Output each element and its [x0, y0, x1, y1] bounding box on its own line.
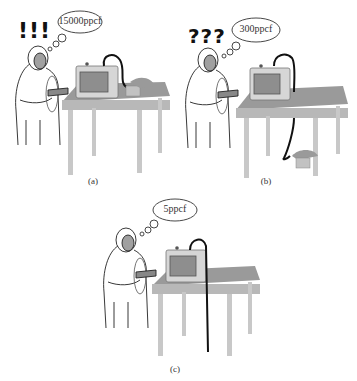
particle-counter	[250, 64, 290, 100]
panel-caption: (a)	[78, 176, 108, 186]
panel-c: 5ppcf (c)	[90, 190, 270, 381]
particle-counter	[76, 62, 118, 98]
person	[16, 46, 68, 145]
panel-caption: (c)	[160, 364, 190, 374]
panel-b: ??? 300ppcf (b)	[178, 0, 357, 190]
particle-counter	[166, 246, 206, 282]
person	[104, 228, 156, 328]
exclamation-marks: !!!	[18, 18, 51, 43]
panel-caption: (b)	[251, 176, 281, 186]
thought-text: 5ppcf	[153, 203, 197, 214]
thought-text: 300ppcf	[234, 23, 278, 34]
question-marks: ???	[188, 24, 226, 48]
person	[186, 48, 238, 148]
thought-text: 15000ppcf	[58, 15, 102, 26]
scene-c	[90, 190, 270, 381]
panel-a: !!! 15000ppcf (a)	[0, 0, 180, 190]
